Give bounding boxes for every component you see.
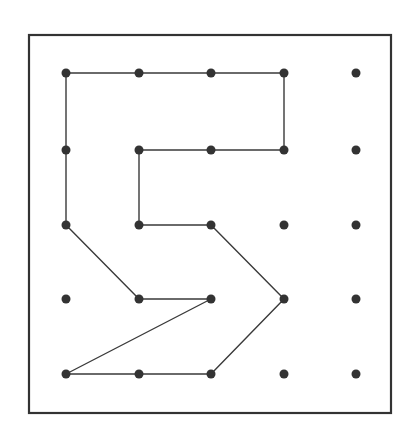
peg-icon: [62, 221, 71, 230]
peg-icon: [280, 295, 289, 304]
peg-icon: [352, 69, 361, 78]
peg-icon: [207, 146, 216, 155]
peg-icon: [280, 69, 289, 78]
peg-icon: [280, 221, 289, 230]
peg-icon: [135, 221, 144, 230]
peg-icon: [207, 221, 216, 230]
peg-icon: [62, 370, 71, 379]
peg-icon: [135, 370, 144, 379]
peg-icon: [280, 370, 289, 379]
peg-icon: [352, 370, 361, 379]
peg-icon: [135, 69, 144, 78]
geoboard-diagram: [0, 0, 405, 446]
peg-icon: [62, 146, 71, 155]
peg-icon: [62, 69, 71, 78]
peg-icon: [135, 146, 144, 155]
peg-icon: [352, 295, 361, 304]
peg-icon: [135, 295, 144, 304]
peg-icon: [207, 69, 216, 78]
peg-icon: [352, 146, 361, 155]
peg-icon: [207, 295, 216, 304]
peg-icon: [280, 146, 289, 155]
peg-icon: [62, 295, 71, 304]
peg-icon: [207, 370, 216, 379]
peg-icon: [352, 221, 361, 230]
